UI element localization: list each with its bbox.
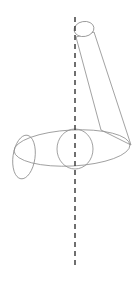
tilted-rectangle bbox=[76, 32, 131, 145]
figure-svg bbox=[0, 0, 139, 284]
big-ellipse bbox=[13, 127, 131, 169]
diagram-canvas bbox=[0, 0, 139, 284]
left-ellipse bbox=[10, 134, 38, 181]
